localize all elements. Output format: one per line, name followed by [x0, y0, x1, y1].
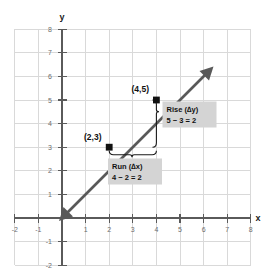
- x-tick-label: 3: [131, 226, 135, 233]
- coordinate-plane-figure: -2 -1 1 2 3 4 5 6 7 8 8 7 6 5 4 3 2 1 -1…: [0, 0, 274, 279]
- point-label-2-3: (2,3): [84, 132, 102, 142]
- x-tick-label: 8: [249, 226, 253, 233]
- run-annotation-title: Run (∆x): [112, 162, 143, 171]
- x-tick-label: 2: [107, 226, 111, 233]
- graph-svg: -2 -1 1 2 3 4 5 6 7 8 8 7 6 5 4 3 2 1 -1…: [0, 0, 274, 279]
- x-tick-labels: -2 -1 1 2 3 4 5 6 7 8: [12, 226, 253, 233]
- y-tick-label: 4: [48, 120, 52, 127]
- x-axis-label: x: [255, 213, 260, 223]
- rise-annotation-title: Rise (∆y): [167, 105, 199, 114]
- x-tick-label: 1: [84, 226, 88, 233]
- y-tick-label: 2: [48, 167, 52, 174]
- y-tick-label: 3: [48, 144, 52, 151]
- rise-annotation: Rise (∆y) 5 − 3 = 2: [163, 102, 217, 128]
- x-tick-label: -2: [12, 226, 18, 233]
- y-tick-label: 6: [48, 73, 52, 80]
- slope-line: [66, 74, 207, 215]
- y-tick-label: 1: [48, 191, 52, 198]
- x-tick-label: 6: [202, 226, 206, 233]
- point-label-4-5: (4,5): [132, 84, 150, 94]
- x-tick-label: 7: [225, 226, 229, 233]
- run-annotation: Run (∆x) 4 − 2 = 2: [108, 159, 162, 185]
- x-tick-label: 5: [178, 226, 182, 233]
- y-tick-label: -2: [46, 262, 52, 269]
- point-marker-2-3: [106, 144, 113, 151]
- y-axis-label: y: [59, 12, 64, 22]
- y-tick-label: 5: [48, 97, 52, 104]
- run-annotation-equation: 4 − 2 = 2: [112, 173, 142, 182]
- rise-annotation-equation: 5 − 3 = 2: [167, 116, 197, 125]
- y-tick-label: 8: [48, 26, 52, 33]
- y-tick-label: 7: [48, 49, 52, 56]
- y-tick-label: -1: [46, 238, 52, 245]
- x-tick-label: 4: [154, 226, 158, 233]
- x-tick-label: -1: [35, 226, 41, 233]
- point-marker-4-5: [153, 97, 160, 104]
